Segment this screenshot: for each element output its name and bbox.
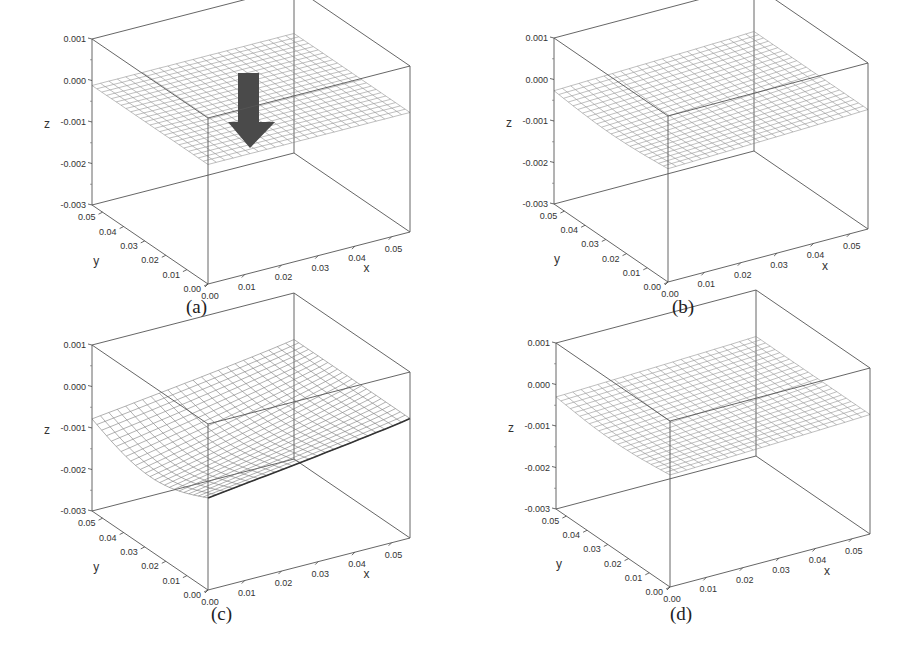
x-tick-label: 0.03 [770, 260, 788, 270]
mesh-line [165, 389, 367, 485]
mesh-line [570, 346, 770, 408]
mesh-line [573, 45, 773, 106]
surface-mesh [554, 32, 868, 169]
mesh-line [731, 344, 845, 422]
mesh-line [286, 343, 402, 422]
x-axis-label: x [364, 261, 370, 275]
z-tick-label: -0.002 [524, 463, 550, 473]
y-tick [602, 239, 606, 241]
y-tick-label: 0.05 [542, 516, 560, 526]
mesh-line [623, 382, 823, 447]
z-tick [552, 384, 556, 385]
mesh-line [625, 80, 825, 143]
y-tick [583, 530, 587, 532]
y-tick-label: 0.01 [162, 270, 180, 280]
x-tick-label: 0.02 [275, 272, 293, 282]
y-tick-label: 0.03 [120, 241, 138, 251]
y-tick-label: 0.02 [141, 561, 159, 571]
mesh-line [712, 44, 826, 122]
y-axis-label: y [93, 560, 99, 574]
y-tick-label: 0.00 [183, 284, 201, 294]
panel-d: 0.0010.000-0.001-0.002-0.003z0.000.010.0… [508, 290, 870, 604]
mesh-line [294, 340, 410, 419]
z-tick-label: 0.000 [63, 382, 86, 392]
mesh-line [613, 376, 813, 441]
mesh-line [602, 64, 802, 127]
y-tick [141, 547, 145, 549]
mesh-line [97, 343, 299, 425]
z-tick [552, 467, 556, 468]
box-edge [554, 204, 668, 282]
y-tick-label: 0.04 [563, 530, 581, 540]
z-tick [88, 344, 92, 345]
box-edge [294, 459, 410, 538]
y-tick-label: 0.05 [78, 212, 96, 222]
y-tick [625, 559, 629, 561]
mesh-line [564, 38, 764, 98]
y-tick-label: 0.02 [604, 559, 622, 569]
z-tick [88, 204, 92, 205]
y-tick [162, 255, 166, 257]
mesh-line [704, 47, 818, 125]
box-edge [668, 229, 868, 282]
y-axis-label: y [93, 254, 99, 268]
box-edge [294, 293, 410, 372]
box-edge [554, 0, 754, 38]
y-tick [120, 533, 124, 535]
z-axis-label: z [508, 421, 514, 435]
mesh-line [585, 356, 785, 420]
box-edge [556, 343, 670, 421]
y-tick-label: 0.04 [99, 533, 117, 543]
y-tick-label: 0.01 [162, 576, 180, 586]
x-tick-label: 0.02 [736, 575, 754, 585]
y-tick [581, 225, 585, 227]
z-tick [88, 469, 92, 470]
panel-b: 0.0010.000-0.001-0.002-0.003z0.000.010.0… [506, 0, 868, 299]
mesh-line [566, 343, 766, 405]
z-tick [550, 203, 554, 204]
box-edge [556, 456, 756, 509]
caption-b: (b) [672, 296, 694, 318]
x-tick-label: 0.03 [772, 565, 790, 575]
box-edge [208, 232, 410, 284]
box-edge [554, 151, 754, 204]
mesh-line [580, 353, 780, 417]
x-tick-label: 0.01 [238, 588, 256, 598]
z-tick-label: -0.002 [522, 158, 548, 168]
y-tick-label: 0.04 [561, 225, 579, 235]
z-tick-label: -0.003 [60, 200, 86, 210]
surface-mesh [92, 340, 410, 498]
panel-a: 0.0010.000-0.001-0.002-0.003z0.000.010.0… [44, 0, 410, 301]
box-edge [92, 153, 294, 205]
y-tick-label: 0.00 [643, 282, 661, 292]
y-tick [183, 576, 187, 578]
z-tick [88, 427, 92, 428]
x-tick-label: 0.01 [698, 279, 716, 289]
z-tick-label: -0.002 [60, 159, 86, 169]
surface-mesh [556, 337, 870, 475]
mesh-line [136, 369, 338, 465]
y-tick-label: 0.04 [99, 227, 117, 237]
z-tick-label: -0.001 [524, 421, 550, 431]
y-tick [141, 241, 145, 243]
y-tick [623, 254, 627, 256]
y-tick [645, 573, 649, 575]
box-edge [756, 456, 870, 534]
z-tick [88, 510, 92, 511]
box-edge [294, 153, 410, 232]
y-tick-label: 0.01 [625, 573, 643, 583]
x-tick-label: 0.03 [311, 569, 329, 579]
x-tick-label: 0.02 [275, 578, 293, 588]
z-tick [88, 121, 92, 122]
mesh-line [654, 61, 768, 139]
mesh-line [126, 406, 242, 485]
y-tick-label: 0.00 [645, 587, 663, 597]
mesh-line [589, 359, 789, 424]
mesh-line [174, 395, 376, 489]
box-edge [208, 538, 410, 590]
z-tick-label: 0.001 [63, 340, 86, 350]
z-tick-label: 0.000 [527, 380, 550, 390]
box-edge [92, 511, 208, 590]
y-tick-label: 0.00 [183, 590, 201, 600]
y-tick-label: 0.03 [120, 547, 138, 557]
